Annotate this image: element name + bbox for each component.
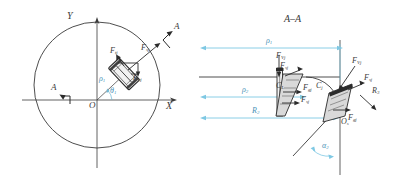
alpha-angle-arrow-right-icon (328, 154, 334, 159)
theta1-label: θ1 (110, 87, 116, 96)
origin-label: O (89, 101, 96, 110)
alpha2-label: α2 (322, 142, 329, 151)
force-left-fvj-label: FVj (276, 52, 285, 61)
section-marker-right-label: A (174, 22, 180, 31)
technical-figure (0, 0, 397, 183)
force-left-fgj-arrow-icon (296, 90, 302, 94)
section-marker-left-label: A (51, 83, 57, 92)
dimension-r2-arrow-left-icon (200, 116, 206, 120)
force-right-fgj-arrow-icon (345, 108, 351, 112)
force-fnj-label: Fnj (133, 74, 142, 83)
y-axis-label: Y (67, 11, 73, 21)
reaction-r3-label: R3 (372, 87, 379, 96)
dimension-rho2-label: ρ2 (242, 86, 248, 95)
x-axis-label: X (166, 101, 172, 111)
dimension-r2-label: R2 (252, 107, 259, 116)
force-right-fsj-label: Fsj (364, 74, 372, 83)
centroid-right-label: Cj (316, 82, 323, 91)
right-section-view (199, 40, 376, 175)
force-left-fsj2-label: Fsj (301, 96, 309, 105)
origin-s-label: Os (341, 118, 349, 127)
rho1-plan-label: ρ1 (99, 75, 105, 84)
section-marker-left-arrow-icon (59, 95, 65, 100)
alpha-angle-arrow-left-icon (311, 146, 316, 151)
force-right-fvj-label: FVj (352, 57, 361, 66)
force-fsj-label: Fsj (141, 44, 149, 53)
force-left-fgj-label: Fgj (303, 84, 312, 93)
force-right-fgj-label: Fgj (348, 114, 357, 123)
dimension-rho2-arrow-left-icon (200, 95, 206, 99)
force-left-fsj-label: Fsj (280, 62, 288, 71)
force-right-fvj-shaft (340, 66, 355, 88)
centroid-left-label: CL (276, 82, 284, 91)
force-left-fsj2-arrow-icon (294, 101, 300, 105)
force-ftj-label: Ftj (110, 47, 118, 56)
reaction-r3-shaft (360, 95, 374, 108)
section-title: A–A (284, 14, 301, 24)
dimension-rho1-label: ρ1 (266, 37, 272, 46)
left-plan-view (22, 17, 177, 168)
dimension-rho1-arrow-left-icon (200, 46, 206, 50)
